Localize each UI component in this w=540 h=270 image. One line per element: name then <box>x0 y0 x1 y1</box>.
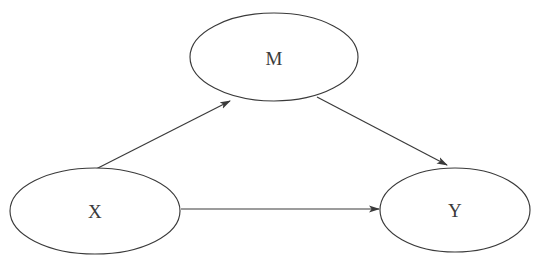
node-x[interactable]: X <box>10 168 180 254</box>
edge-m-to-y-line <box>317 97 447 165</box>
node-y[interactable]: Y <box>380 168 530 252</box>
node-m-label: M <box>265 48 282 69</box>
node-x-label: X <box>88 201 102 222</box>
edge-m-to-y <box>317 97 447 165</box>
edge-x-to-m-line <box>96 101 230 169</box>
node-y-label: Y <box>448 200 462 221</box>
mediation-diagram-canvas: M X Y <box>0 0 540 270</box>
node-m[interactable]: M <box>190 13 358 101</box>
mediation-diagram: M X Y <box>0 0 540 270</box>
edge-x-to-m <box>96 101 230 169</box>
